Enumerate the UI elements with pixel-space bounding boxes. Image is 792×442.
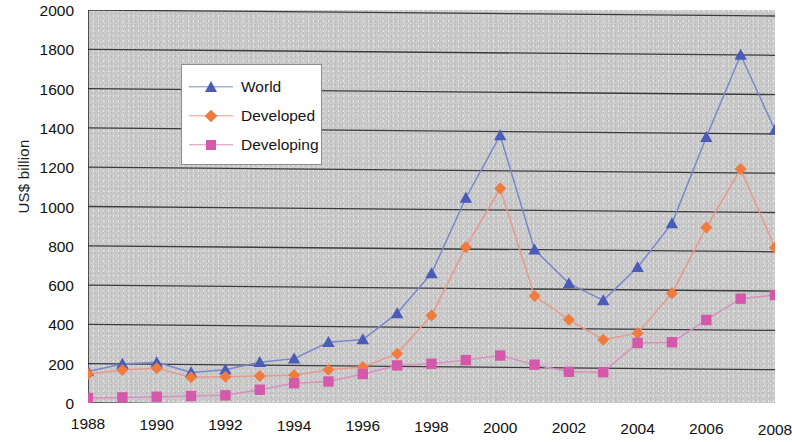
x-tick-label: 1996 (346, 417, 380, 435)
square-marker (735, 293, 745, 303)
square-marker (392, 360, 402, 370)
square-marker (206, 140, 216, 150)
x-tick-label: 2000 (483, 419, 517, 437)
square-marker (186, 391, 196, 401)
diamond-marker (700, 222, 712, 234)
square-marker (88, 393, 93, 403)
diamond-marker (185, 371, 197, 383)
x-tick-label: 2008 (758, 421, 792, 439)
square-marker (598, 367, 608, 377)
triangle-marker (666, 217, 678, 228)
x-tick-label: 2004 (620, 420, 654, 438)
square-marker (461, 355, 471, 365)
square-marker (667, 337, 677, 347)
gridline (88, 207, 775, 213)
diamond-marker (494, 182, 506, 194)
square-marker (495, 350, 505, 360)
diamond-marker (254, 370, 266, 382)
square-marker (323, 376, 333, 386)
triangle-marker (528, 244, 540, 255)
square-marker (632, 338, 642, 348)
gridline (88, 167, 775, 173)
square-marker (152, 392, 162, 402)
x-tick-label: 1994 (277, 417, 311, 435)
x-tick-label: 1990 (139, 416, 173, 434)
legend-swatch (189, 79, 233, 95)
diamond-marker (563, 314, 575, 326)
x-tick-label: 2006 (689, 420, 723, 438)
legend-swatch (189, 108, 233, 124)
legend-label: World (241, 78, 281, 96)
gridline (88, 246, 775, 252)
square-marker (426, 359, 436, 369)
x-tick-label: 1998 (414, 418, 448, 436)
legend-item-developing[interactable]: Developing (189, 130, 311, 159)
triangle-marker (734, 49, 746, 60)
square-marker (564, 367, 574, 377)
square-marker (770, 290, 775, 300)
diamond-marker (205, 109, 218, 122)
diamond-marker (597, 334, 609, 346)
square-marker (701, 315, 711, 325)
square-marker (255, 385, 265, 395)
square-marker (529, 359, 539, 369)
square-marker (117, 392, 127, 402)
diamond-marker (529, 290, 541, 302)
x-tick-label: 1992 (208, 416, 242, 434)
square-marker (358, 369, 368, 379)
x-tick-label: 2002 (552, 419, 586, 437)
triangle-marker (460, 192, 472, 203)
legend-item-world[interactable]: World (189, 72, 311, 101)
gridline (88, 324, 775, 330)
triangle-marker (205, 80, 217, 91)
gridline (88, 10, 775, 16)
x-tick-label: 1988 (71, 415, 105, 433)
chart-legend: WorldDevelopedDeveloping (181, 64, 322, 165)
triangle-marker (769, 124, 775, 135)
legend-label: Developed (241, 107, 315, 125)
square-marker (289, 378, 299, 388)
legend-label: Developing (241, 136, 319, 154)
triangle-marker (288, 352, 300, 363)
legend-swatch (189, 137, 233, 153)
diamond-marker (460, 241, 472, 253)
square-marker (220, 390, 230, 400)
triangle-marker (357, 333, 369, 344)
triangle-marker (425, 267, 437, 278)
legend-item-developed[interactable]: Developed (189, 101, 311, 130)
gridline (88, 49, 775, 55)
